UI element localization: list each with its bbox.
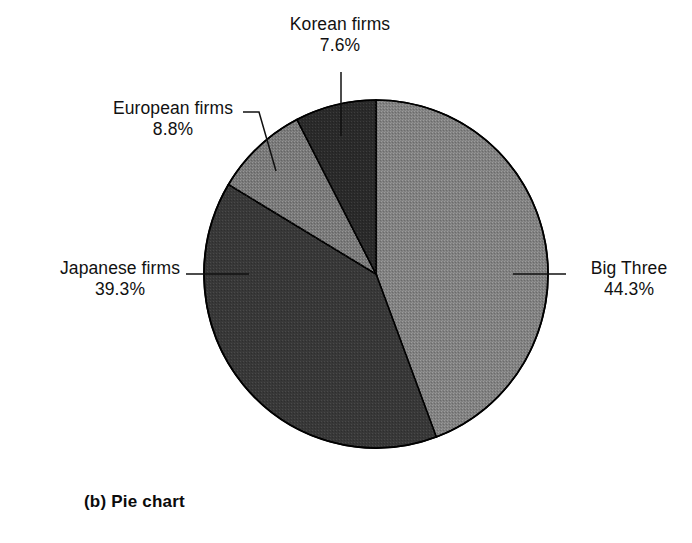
pie-label-korean-firms-value: 7.6%: [255, 35, 425, 56]
pie-label-big-three: Big Three 44.3%: [571, 258, 687, 301]
pie-slices: [204, 100, 548, 448]
pie-label-european-firms-name: European firms: [78, 98, 268, 119]
pie-label-big-three-name: Big Three: [571, 258, 687, 279]
pie-label-big-three-value: 44.3%: [571, 279, 687, 300]
pie-label-japanese-firms: Japanese firms 39.3%: [22, 258, 218, 301]
pie-label-korean-firms-name: Korean firms: [255, 14, 425, 35]
pie-label-european-firms: European firms 8.8%: [78, 98, 268, 141]
pie-label-korean-firms: Korean firms 7.6%: [255, 14, 425, 57]
figure-caption: (b) Pie chart: [84, 492, 185, 512]
pie-label-japanese-firms-value: 39.3%: [22, 279, 218, 300]
pie-chart-figure: Korean firms 7.6% European firms 8.8% Ja…: [0, 0, 692, 543]
pie-label-european-firms-value: 8.8%: [78, 119, 268, 140]
pie-label-japanese-firms-name: Japanese firms: [22, 258, 218, 279]
